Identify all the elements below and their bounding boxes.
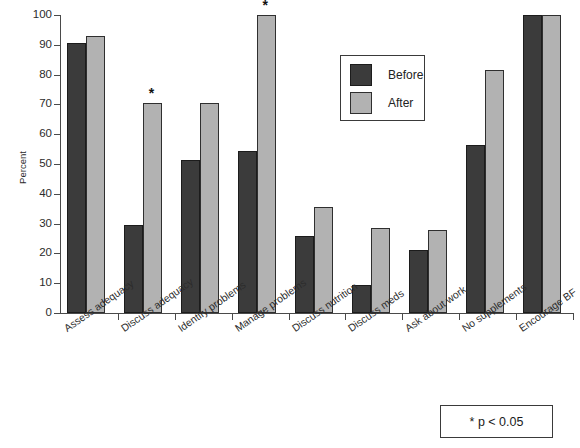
bar-after bbox=[200, 103, 219, 313]
y-axis-tick bbox=[54, 45, 61, 46]
x-axis-tick bbox=[573, 313, 574, 320]
x-axis-tick bbox=[402, 313, 403, 320]
y-axis-tick bbox=[54, 164, 61, 165]
y-axis-tick bbox=[54, 253, 61, 254]
y-axis-tick-label: 40 bbox=[0, 188, 52, 200]
legend-label-before: Before bbox=[388, 68, 423, 82]
y-axis-tick bbox=[54, 283, 61, 284]
significance-footnote-box: * p < 0.05 bbox=[440, 405, 553, 438]
x-axis-tick bbox=[232, 313, 233, 320]
y-axis-tick-label: 100 bbox=[0, 9, 52, 21]
bar-after bbox=[485, 70, 504, 313]
chart-legend: Before After bbox=[340, 55, 425, 121]
y-axis-tick bbox=[54, 15, 61, 16]
bar-before bbox=[295, 236, 314, 313]
y-axis-tick-label: 70 bbox=[0, 98, 52, 110]
y-axis-tick-label: 90 bbox=[0, 39, 52, 51]
legend-label-after: After bbox=[388, 96, 413, 110]
y-axis-tick-label: 80 bbox=[0, 69, 52, 81]
x-axis-tick bbox=[118, 313, 119, 320]
x-axis-tick bbox=[459, 313, 460, 320]
y-axis-tick-label: 10 bbox=[0, 277, 52, 289]
bar-after bbox=[86, 36, 105, 313]
bar-chart: Percent 0102030405060708090100 ** Assess… bbox=[0, 0, 580, 448]
bar-before bbox=[409, 250, 428, 313]
x-axis-tick bbox=[289, 313, 290, 320]
bar-after bbox=[257, 15, 276, 313]
bar-before bbox=[124, 225, 143, 313]
plot-area: ** bbox=[61, 15, 573, 313]
y-axis-tick bbox=[54, 75, 61, 76]
bar-after bbox=[542, 15, 561, 313]
y-axis-tick bbox=[54, 313, 61, 314]
y-axis-tick bbox=[54, 224, 61, 225]
y-axis-tick bbox=[54, 104, 61, 105]
y-axis-tick-label: 30 bbox=[0, 218, 52, 230]
y-axis-tick bbox=[54, 134, 61, 135]
x-axis-tick bbox=[345, 313, 346, 320]
y-axis-tick-label: 20 bbox=[0, 247, 52, 259]
y-axis-tick-label: 50 bbox=[0, 158, 52, 170]
y-axis-tick bbox=[54, 194, 61, 195]
bar-before bbox=[67, 43, 86, 313]
bar-before bbox=[466, 145, 485, 313]
x-axis-tick bbox=[175, 313, 176, 320]
y-axis-tick-label: 60 bbox=[0, 128, 52, 140]
bar-before bbox=[523, 15, 542, 313]
significance-asterisk: * bbox=[263, 0, 268, 10]
legend-swatch-before-icon bbox=[350, 64, 372, 86]
x-axis-tick bbox=[516, 313, 517, 320]
y-axis-tick-label: 0 bbox=[0, 307, 52, 319]
significance-asterisk: * bbox=[149, 88, 154, 98]
legend-swatch-after-icon bbox=[350, 92, 372, 114]
bar-after bbox=[143, 103, 162, 313]
significance-footnote-text: * p < 0.05 bbox=[441, 406, 552, 437]
